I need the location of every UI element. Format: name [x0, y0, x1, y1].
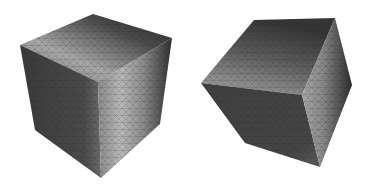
left-cube	[20, 14, 172, 178]
right-cube-left-mesh	[201, 83, 320, 167]
right-cube	[201, 18, 352, 167]
figure-canvas	[0, 0, 372, 185]
